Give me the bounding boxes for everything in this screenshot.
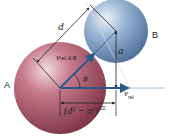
label-relative-velocity: vrel [124, 88, 134, 98]
label-angle-theta: θ [83, 74, 87, 84]
label-distance-d: d [58, 20, 64, 32]
label-impact-parameter-a: a [118, 44, 124, 56]
label-sphere-a: A [4, 80, 10, 90]
label-sphere-b: B [152, 30, 158, 40]
label-horizontal-distance: (d² − a²)1/2 [64, 105, 105, 116]
collision-diagram [0, 0, 171, 138]
label-relative-velocity-ab: vrel, A-B [56, 52, 76, 62]
